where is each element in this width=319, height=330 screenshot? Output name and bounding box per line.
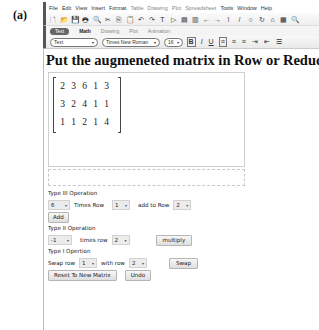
matrix-cell: 1 xyxy=(103,95,110,113)
math-mode-icon[interactable]: ▷ xyxy=(170,16,177,23)
menu-file[interactable]: File xyxy=(49,5,58,11)
with-row-label: with row xyxy=(101,260,125,266)
redo-icon[interactable]: ↷ xyxy=(148,16,155,23)
matrix-cell: 4 xyxy=(81,95,88,113)
type3-source-row-select[interactable]: 1 ▾ xyxy=(112,200,130,210)
type2-row-select[interactable]: 2 ▾ xyxy=(112,235,130,245)
menu-spreadsheet[interactable]: Spreadsheet xyxy=(185,5,216,11)
type1-row-b-select[interactable]: 2 ▾ xyxy=(129,258,147,268)
align-left-button[interactable]: ≡ xyxy=(219,37,227,47)
main-toolbar: 🗋 📂 💾 🖶 🔍 ✂ ⎘ 📋 ↶ ↷ T ▷ ▤ ▥ ← → ! / ○ ↻ … xyxy=(43,13,319,26)
font-size-select[interactable]: 16 ▾ xyxy=(164,38,183,47)
new-document-icon[interactable]: 🗋 xyxy=(49,16,56,23)
align-center-button[interactable]: ≡ xyxy=(231,38,237,46)
restart-icon[interactable]: ↻ xyxy=(258,16,265,23)
chevron-down-icon: ▾ xyxy=(125,238,127,243)
type3-multiplier-select[interactable]: 6 ▾ xyxy=(48,200,70,210)
matrix-cell: 2 xyxy=(59,77,66,95)
times-row-label: Times Row xyxy=(74,202,104,208)
undo-button[interactable]: Undo xyxy=(125,270,152,281)
menu-edit[interactable]: Edit xyxy=(62,5,71,11)
chevron-down-icon: ▾ xyxy=(92,39,94,46)
type1-row-a-select[interactable]: 1 ▾ xyxy=(79,258,97,268)
outdent-button[interactable]: ⇤ xyxy=(263,38,271,46)
action-buttons-row: Reset To New Matrix Undo xyxy=(48,270,198,280)
align-right-button[interactable]: ≡ xyxy=(241,38,247,46)
add-button[interactable]: Add xyxy=(48,212,69,223)
matrix-cell: 2 xyxy=(70,95,77,113)
execute-group-icon[interactable]: ▤ xyxy=(181,16,188,23)
document-content: Put the augmeneted matrix in Row or Redu… xyxy=(43,48,319,330)
style-select[interactable]: Text ▾ xyxy=(50,38,98,47)
type3-button-row: Add xyxy=(48,212,198,222)
text-mode-icon[interactable]: T xyxy=(159,16,166,23)
matrix-cell: 6 xyxy=(81,77,88,95)
type1-title: Type I Opertion xyxy=(48,247,198,256)
menu-tools[interactable]: Tools xyxy=(220,5,233,11)
tab-animation[interactable]: Animation xyxy=(148,28,170,34)
type3-title: Type III Operation xyxy=(48,189,198,198)
figure-label: (a) xyxy=(13,8,27,23)
paste-icon[interactable]: 📋 xyxy=(126,16,133,23)
execute-all-icon[interactable]: ▥ xyxy=(192,16,199,23)
cut-icon[interactable]: ✂ xyxy=(104,16,111,23)
save-icon[interactable]: 💾 xyxy=(71,16,78,23)
debug-icon[interactable]: / xyxy=(236,16,243,23)
type3-source-row-value: 1 xyxy=(115,202,119,208)
copy-icon[interactable]: ⎘ xyxy=(115,16,122,23)
open-icon[interactable]: 📂 xyxy=(60,16,67,23)
chevron-down-icon: ▾ xyxy=(177,39,179,46)
type3-target-row-select[interactable]: 2 ▾ xyxy=(173,200,191,210)
matrix-display: 2 3 6 1 3 3 2 4 1 1 1 1 2 1 xyxy=(48,72,245,167)
print-icon[interactable]: 🖶 xyxy=(82,16,89,23)
bold-button[interactable]: B xyxy=(187,37,196,47)
menu-help[interactable]: Help xyxy=(261,5,272,11)
tab-text[interactable]: Text xyxy=(50,28,69,35)
grid-icon[interactable]: ▦ xyxy=(280,16,287,23)
zoom-icon[interactable]: 🔍 xyxy=(291,16,298,23)
type2-multiplier-select[interactable]: -1 ▾ xyxy=(48,235,72,245)
indent-button[interactable]: ⇥ xyxy=(251,38,259,46)
matrix-cell: 1 xyxy=(70,113,77,131)
font-size-value: 16 xyxy=(168,39,174,46)
menu-insert[interactable]: Insert xyxy=(91,5,105,11)
menu-view[interactable]: View xyxy=(75,5,87,11)
chevron-down-icon: ▾ xyxy=(65,203,67,208)
chevron-down-icon: ▾ xyxy=(92,261,94,266)
tab-drawing[interactable]: Drawing xyxy=(101,28,119,34)
add-to-row-label: add to Row xyxy=(138,202,169,208)
underline-button[interactable]: U xyxy=(208,38,215,46)
reset-matrix-button[interactable]: Reset To New Matrix xyxy=(48,270,117,281)
forward-icon[interactable]: → xyxy=(214,16,221,23)
italic-button[interactable]: I xyxy=(200,38,204,46)
execute-icon[interactable]: ! xyxy=(225,16,232,23)
menu-window[interactable]: Window xyxy=(237,5,257,11)
stop-icon[interactable]: ○ xyxy=(247,16,254,23)
augmented-matrix: 2 3 6 1 3 3 2 4 1 1 1 1 2 1 xyxy=(53,77,121,133)
type1-row: Swap row 1 ▾ with row 2 ▾ Swap xyxy=(48,258,198,268)
swap-row-label: Swap row xyxy=(48,260,75,266)
type3-multiplier-value: 6 xyxy=(51,202,55,208)
font-select[interactable]: Times New Roman ▾ xyxy=(102,38,160,47)
menu-table[interactable]: Table xyxy=(130,5,143,11)
swap-button[interactable]: Swap xyxy=(169,258,198,269)
back-icon[interactable]: ← xyxy=(203,16,210,23)
times-row-label: times row xyxy=(80,237,108,243)
help-icon[interactable]: ⌂ xyxy=(269,16,276,23)
menu-bar: File Edit View Insert Format Table Drawi… xyxy=(43,2,319,13)
app-window: File Edit View Insert Format Table Drawi… xyxy=(43,2,319,330)
multiply-button[interactable]: multiply xyxy=(156,235,193,246)
tab-math[interactable]: Math xyxy=(79,28,91,34)
tab-plot[interactable]: Plot xyxy=(129,28,138,34)
menu-format[interactable]: Format xyxy=(109,5,126,11)
undo-icon[interactable]: ↶ xyxy=(137,16,144,23)
menu-drawing[interactable]: Drawing xyxy=(148,5,168,11)
page-title: Put the augmeneted matrix in Row or Redu… xyxy=(46,52,319,69)
print-preview-icon[interactable]: 🔍 xyxy=(93,16,100,23)
menu-plot[interactable]: Plot xyxy=(172,5,181,11)
matrix-cell: 2 xyxy=(81,113,88,131)
chevron-down-icon: ▾ xyxy=(154,39,156,46)
type2-row: -1 ▾ times row 2 ▾ multiply xyxy=(48,235,198,245)
matrix-cell: 3 xyxy=(59,95,66,113)
bullets-button[interactable]: ☰ xyxy=(275,38,283,46)
